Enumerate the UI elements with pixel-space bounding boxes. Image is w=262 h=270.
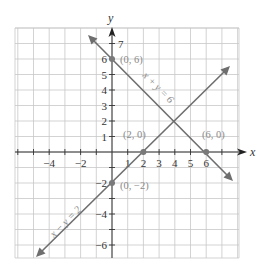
- x-tick-label: −2: [75, 157, 87, 169]
- y-axis-label: y: [107, 11, 114, 25]
- y-tick-label: −2: [95, 177, 107, 189]
- point-6-0: [203, 149, 209, 155]
- x-tick-label: 4: [172, 157, 178, 169]
- point-0-6: [109, 56, 115, 62]
- graph-of-linear-equations: −4−2123456 7654321−2−4−6 x y (0, 6) (2, …: [0, 0, 262, 270]
- x-tick-label: 3: [156, 157, 162, 169]
- y-ticks: 7654321−2−4−6: [95, 38, 124, 252]
- y-tick-label: 4: [102, 84, 108, 96]
- y-tick-label: 2: [102, 115, 108, 127]
- point-label-0-6: (0, 6): [120, 54, 143, 66]
- point-label-2-0: (2, 0): [123, 129, 146, 141]
- y-tick-label: 1: [102, 131, 108, 143]
- y-tick-label: 7: [118, 38, 124, 50]
- x-tick-label: 2: [141, 157, 147, 169]
- point-2-0: [140, 149, 146, 155]
- x-tick-label: −4: [43, 157, 55, 169]
- point-label-0-neg2: (0, −2): [120, 180, 149, 192]
- y-tick-label: −6: [95, 239, 107, 251]
- y-tick-label: 3: [102, 100, 108, 112]
- x-tick-label: 6: [203, 157, 209, 169]
- x-axis-label: x: [249, 145, 256, 159]
- point-label-6-0: (6, 0): [202, 129, 225, 141]
- equation-label-x-minus-y-eq-2: x − y = 2: [47, 203, 84, 240]
- y-tick-label: −4: [95, 208, 107, 220]
- x-tick-label: 5: [188, 157, 194, 169]
- y-tick-label: 5: [102, 69, 108, 81]
- point-0-neg2: [109, 180, 115, 186]
